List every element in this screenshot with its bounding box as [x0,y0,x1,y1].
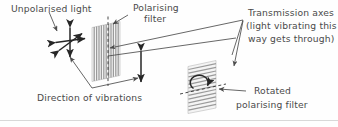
leader-polarising-filter [113,15,128,24]
unpolarised-light-arrow-star-icon [56,28,86,58]
leader-rotated-filter [219,89,246,91]
diagram-canvas: Unpolarised light Polarising filter Tran… [0,0,338,127]
label-polarising-filter-line1: Polarising [133,2,179,13]
label-transmission-axes-line1: Transmission axes [247,7,334,18]
first-polarising-filter [92,17,120,87]
label-rotated-filter-line2: polarising filter [236,99,308,110]
label-unpolarised-light: Unpolarised light [11,3,92,14]
leader-unpolarised-light [49,12,57,31]
label-rotated-filter-line1: Rotated [254,85,291,96]
leader-transmission-axes-first [110,20,243,48]
label-direction-of-vibrations: Direction of vibrations [37,92,142,103]
leader-direction-vibrations-left [70,57,92,88]
leader-transmission-axes-branch [108,20,243,56]
polarisation-diagram-figure: Unpolarised light Polarising filter Tran… [0,0,338,127]
rotated-polarising-filter [180,61,226,114]
label-transmission-axes-line2: (light vibrating this [246,20,337,31]
label-polarising-filter-line2: filter [144,13,166,24]
label-transmission-axes-line3: way gets through) [248,33,335,44]
